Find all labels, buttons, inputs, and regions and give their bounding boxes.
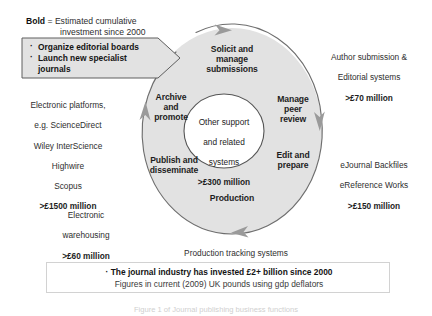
callout-text: Organize editorial boards Launch new spe… xyxy=(30,42,158,75)
stage-label-solicit: Solicit and manage submissions xyxy=(186,44,278,74)
annotation-electronic-warehousing-amount: >£60 million xyxy=(36,251,136,261)
annotation-electronic-platforms-line-4: Highwire xyxy=(4,161,132,171)
callout-item-2-continuation: journals xyxy=(30,64,158,75)
annotation-electronic-platforms-line-2: e.g. ScienceDirect xyxy=(4,120,132,130)
legend-line2: investment since 2000 xyxy=(26,27,186,38)
annotation-electronic-platforms-line-1: Electronic platforms, xyxy=(4,100,132,110)
annotation-author-submission-line-2: Editorial systems xyxy=(310,72,428,82)
summary-line-2: Figures in current (2009) UK pounds usin… xyxy=(47,279,391,289)
summary-line-1: The journal industry has invested £2+ bi… xyxy=(47,267,391,277)
callout-item-2: Launch new specialist xyxy=(30,53,158,64)
annotation-author-submission-line-1: Author submission & xyxy=(310,52,428,62)
annotation-ejournal-backfiles-line-2: eReference Works xyxy=(318,180,430,190)
summary-box: The journal industry has invested £2+ bi… xyxy=(46,262,390,293)
annotation-electronic-platforms-line-3: Wiley InterScience xyxy=(4,141,132,151)
annotation-electronic-platforms-line-5: Scopus xyxy=(4,181,132,191)
annotation-electronic-platforms-amount: >£1500 million xyxy=(4,201,132,211)
annotation-author-submission: Author submission & Editorial systems >£… xyxy=(310,42,428,113)
callout-item-1: Organize editorial boards xyxy=(30,42,158,53)
callout-box: Organize editorial boards Launch new spe… xyxy=(22,38,180,78)
center-amount: >£300 million xyxy=(184,178,264,188)
annotation-ejournal-backfiles: eJournal Backfiles eReference Works >£15… xyxy=(318,150,430,221)
summary-line-1-text: The journal industry has invested £2+ bi… xyxy=(106,267,333,277)
center-line-3: systems xyxy=(184,158,264,168)
legend-line1: = Estimated cumulative xyxy=(45,16,136,26)
annotation-electronic-warehousing-line-2: warehousing xyxy=(36,230,136,240)
center-circle-text: Other support and related systems >£300 … xyxy=(184,108,264,198)
annotation-author-submission-amount: >£70 million xyxy=(310,93,428,103)
figure-caption: Figure 1 of Journal publishing business … xyxy=(0,305,432,316)
legend: Bold = Estimated cumulative investment s… xyxy=(26,16,186,38)
annotation-electronic-platforms: Electronic platforms, e.g. ScienceDirect… xyxy=(4,90,132,221)
figure-canvas: Bold = Estimated cumulative investment s… xyxy=(0,0,432,316)
annotation-production-tracking-line-1: Production tracking systems xyxy=(156,248,316,258)
annotation-ejournal-backfiles-amount: >£150 million xyxy=(318,201,430,211)
legend-keyword: Bold xyxy=(26,16,45,26)
center-line-2: and related xyxy=(184,138,264,148)
center-line-1: Other support xyxy=(184,118,264,128)
annotation-ejournal-backfiles-line-1: eJournal Backfiles xyxy=(318,160,430,170)
stage-label-edit-and-prepare: Edit and prepare xyxy=(262,150,324,170)
